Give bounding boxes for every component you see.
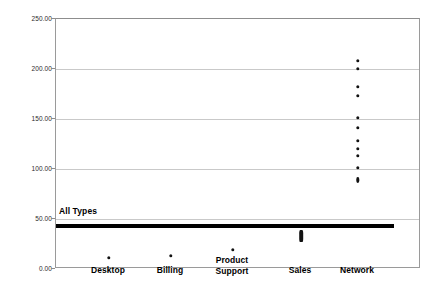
data-point <box>356 154 359 157</box>
y-tick-label-100: 100.00 <box>4 165 52 172</box>
plot-area: All Types <box>55 18 420 268</box>
data-point <box>107 256 110 259</box>
all-types-reference-line <box>56 224 394 228</box>
gridline-150 <box>56 119 419 120</box>
y-tick-label-250: 250.00 <box>4 15 52 22</box>
x-tick-label-product-support: Product Support <box>216 255 249 276</box>
x-tick-label-network: Network <box>340 265 374 276</box>
data-point <box>356 94 359 97</box>
y-tick-label-0: 0.00 <box>4 265 52 272</box>
data-point <box>231 248 234 251</box>
data-point <box>356 139 359 142</box>
data-point <box>169 254 172 257</box>
y-tick-label-50: 50.00 <box>4 215 52 222</box>
data-point <box>299 230 303 242</box>
data-point <box>356 59 359 62</box>
y-tick-mark-0 <box>51 268 55 269</box>
y-tick-label-200: 200.00 <box>4 65 52 72</box>
data-point <box>356 126 359 129</box>
gridline-50 <box>56 219 419 220</box>
data-point <box>356 85 359 88</box>
x-tick-label-desktop: Desktop <box>91 265 125 276</box>
y-axis: 250.00 200.00 150.00 100.00 50.00 0.00 <box>0 0 52 301</box>
all-types-label: All Types <box>59 206 97 216</box>
data-point <box>356 147 359 150</box>
x-tick-label-billing: Billing <box>157 265 183 276</box>
data-point <box>356 177 359 183</box>
scatter-chart: 250.00 200.00 150.00 100.00 50.00 0.00 <box>0 0 446 301</box>
gridline-100 <box>56 169 419 170</box>
gridline-200 <box>56 69 419 70</box>
y-tick-label-150: 150.00 <box>4 115 52 122</box>
x-tick-label-sales: Sales <box>289 265 311 276</box>
data-point <box>356 67 359 70</box>
